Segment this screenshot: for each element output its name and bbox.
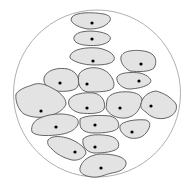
nucleus-dot <box>91 59 94 62</box>
nucleus-dot <box>85 106 88 109</box>
nucleus-dot <box>90 21 93 24</box>
cell-membrane <box>71 13 110 29</box>
cell <box>141 91 177 119</box>
cell-membrane <box>80 115 119 133</box>
cell-membrane <box>120 120 150 139</box>
cell-membrane <box>83 135 119 153</box>
cell-membrane <box>48 137 86 161</box>
cell <box>70 48 114 65</box>
nucleus-dot <box>93 123 96 126</box>
cells-group <box>16 13 177 177</box>
cell <box>117 72 151 89</box>
nucleus-dot <box>58 81 61 84</box>
nucleus-dot <box>137 79 140 82</box>
nucleus-dot <box>118 106 121 109</box>
cell-membrane <box>78 68 114 92</box>
nucleus-dot <box>99 166 102 169</box>
cell-membrane <box>106 92 142 118</box>
cell-diagram <box>0 0 188 182</box>
cell <box>83 135 119 153</box>
nucleus-dot <box>93 145 96 148</box>
nucleus-dot <box>90 37 93 40</box>
nucleus-dot <box>139 62 142 65</box>
cell <box>71 13 110 29</box>
cell <box>106 92 142 118</box>
cell-membrane <box>141 91 177 119</box>
cell <box>121 50 156 71</box>
nucleus-dot <box>39 109 42 112</box>
nucleus-dot <box>54 125 57 128</box>
nucleus-dot <box>149 104 152 107</box>
cell <box>69 93 105 114</box>
cell-membrane <box>69 93 105 114</box>
cell <box>48 137 86 161</box>
cell <box>120 120 150 139</box>
cell <box>80 115 119 133</box>
nucleus-dot <box>130 130 133 133</box>
cell <box>78 68 114 92</box>
nucleus-dot <box>85 82 88 85</box>
cell <box>74 31 111 45</box>
cell-membrane <box>117 72 151 89</box>
nucleus-dot <box>73 150 76 153</box>
cell-membrane <box>70 48 114 65</box>
cell-membrane <box>121 50 156 71</box>
